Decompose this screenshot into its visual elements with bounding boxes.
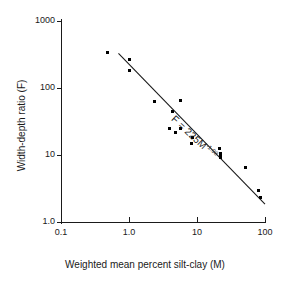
data-point <box>219 156 222 159</box>
data-point <box>106 51 109 54</box>
data-point <box>153 100 156 103</box>
x-axis-tick-label: 1.0 <box>115 228 143 237</box>
data-point <box>257 189 260 192</box>
y-axis-tick-label: 1000 <box>17 16 55 25</box>
data-point <box>128 69 131 72</box>
y-axis-tick <box>57 222 62 223</box>
data-point <box>244 166 247 169</box>
x-axis-tick-label: 0.1 <box>47 228 75 237</box>
plot-area <box>61 21 265 222</box>
data-point <box>171 110 174 113</box>
y-axis-tick <box>57 21 62 22</box>
data-point <box>168 127 171 130</box>
x-axis-title: Weighted mean percent silt-clay (M) <box>0 259 290 270</box>
y-axis-tick-label: 1.0 <box>17 217 55 226</box>
x-axis-tick <box>197 217 198 222</box>
data-point <box>174 131 177 134</box>
data-point <box>128 58 131 61</box>
y-axis-title: Width-depth ratio (F) <box>16 36 27 216</box>
x-axis-tick <box>265 217 266 222</box>
data-point <box>259 196 262 199</box>
y-axis-tick <box>57 88 62 89</box>
data-point <box>218 147 221 150</box>
data-point <box>179 99 182 102</box>
x-axis-tick-label: 100 <box>251 228 279 237</box>
y-axis-tick <box>57 155 62 156</box>
x-axis-line <box>59 222 266 223</box>
x-axis-tick-label: 10 <box>183 228 211 237</box>
x-axis-tick <box>129 217 130 222</box>
regression-line <box>61 21 265 222</box>
chart-figure: 0.11.0101001.0101001000 F = 225M-1.08 We… <box>0 0 290 282</box>
